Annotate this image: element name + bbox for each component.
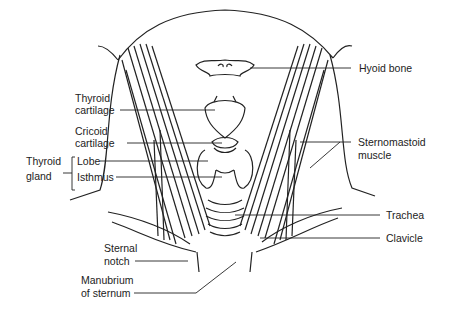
- clavicle-left: [108, 212, 190, 244]
- thyroid-lobe-right: [234, 150, 253, 188]
- neck-right-outline: [330, 55, 375, 196]
- thyroid-lobe-left: [197, 150, 216, 188]
- hyoid-bone: [196, 60, 254, 76]
- neck-anatomy-diagram: Hyoid bone Thyroid cartilage Cricoid car…: [0, 0, 449, 316]
- label-sternal-notch-2: notch: [104, 255, 130, 267]
- label-trachea: Trachea: [386, 209, 424, 221]
- label-manubrium-1: Manubrium: [81, 274, 134, 286]
- label-thyroid-cartilage-2: cartilage: [75, 104, 115, 116]
- clavicle-right: [262, 208, 342, 242]
- label-sternal-notch-1: Sternal: [104, 242, 137, 254]
- label-sternomastoid-2: muscle: [358, 149, 391, 161]
- label-cricoid-cartilage-2: cartilage: [75, 137, 115, 149]
- trachea-rings: [206, 200, 244, 236]
- sternomastoid-left: [122, 44, 210, 244]
- sternomastoid-right: [240, 44, 328, 244]
- label-isthmus: Isthmus: [77, 171, 114, 183]
- label-thyroid-cartilage-1: Thyroid: [75, 92, 110, 104]
- label-hyoid-bone: Hyoid bone: [359, 62, 412, 74]
- label-thyroid-gland-2: gland: [26, 170, 52, 182]
- label-thyroid-gland-1: Thyroid: [26, 155, 61, 167]
- label-clavicle: Clavicle: [386, 232, 423, 244]
- thyroid-isthmus: [216, 170, 234, 173]
- label-lobe: Lobe: [77, 155, 100, 167]
- label-sternomastoid-1: Sternomastoid: [358, 136, 426, 148]
- label-cricoid-cartilage-1: Cricoid: [75, 125, 108, 137]
- manubrium: [197, 252, 252, 272]
- label-manubrium-2: of sternum: [81, 287, 131, 299]
- thyroid-cartilage: [205, 101, 245, 139]
